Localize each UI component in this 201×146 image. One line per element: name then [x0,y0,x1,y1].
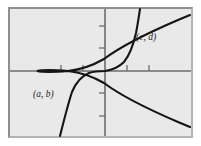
label-point-c-d: (c, d) [136,32,156,43]
axes-group [10,9,191,136]
plot-canvas: (a, b) (c, d) [0,0,201,146]
label-point-a-b: (a, b) [33,89,54,100]
figure-page: (a, b) (c, d) [0,0,201,146]
